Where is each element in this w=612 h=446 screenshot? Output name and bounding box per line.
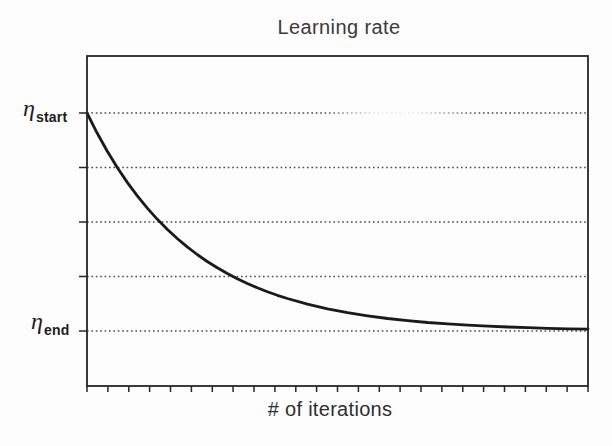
gridline-fade-artifact bbox=[323, 109, 478, 117]
x-axis-label: # of iterations bbox=[268, 398, 393, 421]
plot-frame bbox=[87, 56, 588, 386]
learning-rate-figure: Learning rate ηstart ηend # of iteration… bbox=[0, 0, 612, 446]
learning-rate-curve bbox=[87, 113, 588, 329]
plot-area bbox=[0, 0, 612, 446]
